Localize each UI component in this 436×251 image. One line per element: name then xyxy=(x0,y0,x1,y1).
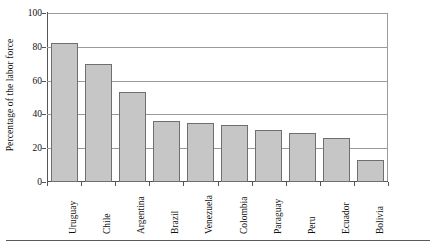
x-axis-category-label-text: Bolivia xyxy=(375,206,385,234)
bar xyxy=(85,64,112,182)
bar xyxy=(51,43,78,182)
x-axis-tick-mark xyxy=(183,182,184,186)
y-axis-title: Percentage of the labor force xyxy=(0,0,20,190)
x-axis-category-label-text: Paraguay xyxy=(273,199,283,234)
x-axis-tick-mark xyxy=(388,182,389,186)
x-axis-category-label-text: Ecuador xyxy=(341,202,351,234)
x-axis-category-label-text: Argentina xyxy=(136,196,146,234)
y-axis-tick-label: 100 xyxy=(28,8,42,18)
y-axis-tick-label: 80 xyxy=(33,42,43,52)
y-axis-tick-label: 20 xyxy=(33,143,43,153)
plot-area xyxy=(47,13,388,182)
y-axis-tick-label: 60 xyxy=(33,76,43,86)
x-axis-tick-mark xyxy=(115,182,116,186)
bar-chart-figure: Percentage of the labor force 0204060801… xyxy=(0,0,436,251)
y-axis-tick-mark xyxy=(42,13,46,14)
bar xyxy=(221,125,248,182)
x-axis-tick-mark xyxy=(47,182,48,186)
x-axis-tick-mark xyxy=(252,182,253,186)
bar xyxy=(187,123,214,182)
bar xyxy=(119,92,146,182)
x-axis-category-label-text: Uruguay xyxy=(68,201,78,234)
x-axis-tick-marks xyxy=(47,182,388,187)
x-axis-tick-mark xyxy=(81,182,82,186)
x-axis-category-label-text: Venezuela xyxy=(204,195,214,234)
x-axis-category-label-text: Brazil xyxy=(170,211,180,234)
y-axis-tick-mark xyxy=(42,47,46,48)
footer-rule xyxy=(6,240,430,241)
y-axis-tick-mark xyxy=(42,81,46,82)
y-axis-tick-label: 40 xyxy=(33,109,43,119)
x-axis-category-label-text: Colombia xyxy=(239,197,249,234)
x-axis-tick-mark xyxy=(218,182,219,186)
y-axis-tick-labels: 020406080100 xyxy=(18,0,46,195)
x-axis-tick-mark xyxy=(354,182,355,186)
x-axis-category-labels: UruguayChileArgentinaBrazilVenezuelaColo… xyxy=(47,188,388,238)
x-axis-category-label-text: Chile xyxy=(102,213,112,234)
x-axis-category-label-text: Peru xyxy=(307,217,317,234)
y-axis-tick-mark xyxy=(42,148,46,149)
bar xyxy=(357,160,384,182)
bar xyxy=(153,121,180,182)
bar xyxy=(255,130,282,182)
y-axis-title-text: Percentage of the labor force xyxy=(5,39,15,152)
bar xyxy=(289,133,316,182)
bar-series xyxy=(47,13,388,182)
x-axis-tick-mark xyxy=(149,182,150,186)
y-axis-tick-mark xyxy=(42,182,46,183)
x-axis-tick-mark xyxy=(320,182,321,186)
bar xyxy=(323,138,350,182)
y-axis-tick-mark xyxy=(42,114,46,115)
x-axis-tick-mark xyxy=(286,182,287,186)
